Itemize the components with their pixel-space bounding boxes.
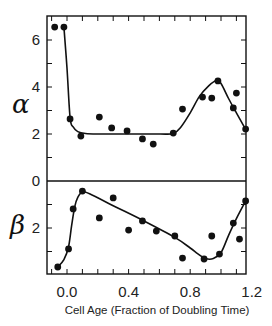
alpha-y-tick-label: 4 — [32, 78, 40, 95]
beta-y-tick-label: 2 — [32, 219, 40, 236]
beta-data-point — [139, 218, 146, 225]
alpha-data-point — [77, 133, 84, 140]
alpha-data-point — [199, 94, 206, 101]
alpha-data-point — [215, 77, 222, 84]
alpha-y-tick-label: 0 — [32, 172, 40, 189]
x-tick-label: 0.8 — [180, 283, 201, 300]
alpha-data-point — [150, 141, 157, 148]
alpha-data-point — [108, 124, 115, 131]
plot-border — [47, 16, 246, 274]
beta-data-point — [179, 255, 186, 262]
beta-data-point — [230, 220, 237, 227]
beta-data-point — [153, 228, 160, 235]
beta-data-point — [54, 264, 61, 271]
beta-data-point — [70, 206, 77, 213]
alpha-data-point — [67, 116, 74, 123]
alpha-y-tick-label: 2 — [32, 125, 40, 142]
beta-axis-label: β — [9, 210, 25, 240]
alpha-y-tick-label: 6 — [32, 31, 40, 48]
beta-data-point — [208, 233, 215, 240]
x-tick-label: 0.0 — [57, 283, 78, 300]
alpha-data-point — [124, 128, 131, 135]
x-axis-label: Cell Age (Fraction of Doubling Time) — [65, 304, 250, 316]
alpha-data-point — [51, 24, 58, 31]
plot-frame — [47, 16, 246, 274]
chart: 0.00.40.81.2Cell Age (Fraction of Doubli… — [0, 0, 272, 326]
x-tick-label: 0.4 — [118, 283, 139, 300]
alpha-data-point — [96, 114, 103, 121]
alpha-axis-label: α — [12, 89, 30, 119]
beta-data-point — [201, 256, 208, 263]
alpha-data-point — [139, 136, 146, 143]
beta-data-point — [65, 246, 72, 253]
alpha-data-point — [179, 106, 186, 113]
alpha-data-point — [233, 90, 240, 97]
x-tick-label: 1.2 — [241, 283, 262, 300]
alpha-data-point — [230, 105, 237, 112]
beta-data-point — [110, 195, 117, 202]
beta-data-point — [236, 236, 243, 243]
alpha-data-point — [242, 126, 249, 133]
alpha-data-point — [170, 130, 177, 137]
beta-data-point — [242, 198, 249, 205]
axis-ticks — [47, 16, 246, 274]
alpha-data-point — [61, 24, 68, 31]
beta-data-point — [96, 214, 103, 221]
beta-data-point — [79, 188, 86, 195]
beta-data-point — [216, 251, 223, 258]
beta-data-point — [125, 227, 132, 234]
alpha-data-point — [208, 95, 215, 102]
beta-data-point — [171, 233, 178, 240]
data-points — [51, 24, 249, 271]
